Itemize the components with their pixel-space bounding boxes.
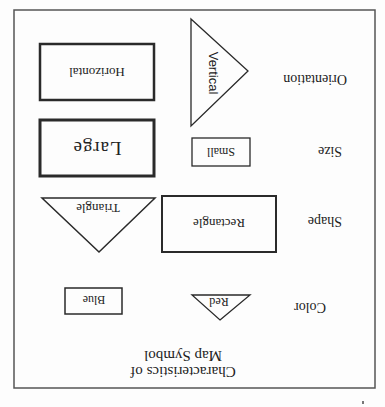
small-label: Small [206, 145, 235, 159]
large-label: Large [73, 138, 122, 159]
map-symbol-figure: Characteristics of Map Symbol Color Red … [0, 0, 385, 407]
figure-border [14, 10, 375, 388]
horizontal-label: Horizontal [69, 65, 125, 80]
row-label-color: Color [294, 300, 326, 315]
blue-label: Blue [83, 293, 106, 307]
figure-svg: Characteristics of Map Symbol Color Red … [0, 0, 385, 407]
row-label-shape: Shape [308, 214, 342, 229]
row-label-size: Size [318, 144, 342, 159]
red-label: Red [209, 295, 228, 309]
rectangle-label: Rectangle [193, 216, 245, 231]
title-line-1: Characteristics of [130, 364, 235, 380]
row-label-orientation: Orientation [283, 72, 347, 87]
title-line-2: Map Symbol [144, 348, 222, 364]
vertical-label: Vertical [206, 52, 221, 95]
speck-mark [362, 401, 364, 404]
triangle-label: Triangle [76, 201, 120, 216]
